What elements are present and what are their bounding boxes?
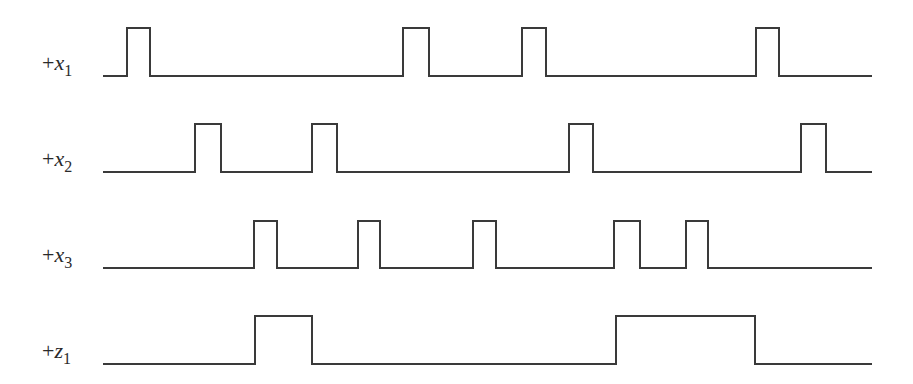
waveform-x1 <box>103 28 872 76</box>
label-subscript: 3 <box>64 254 72 271</box>
label-subscript: 1 <box>63 350 71 367</box>
label-prefix: + <box>42 146 54 171</box>
label-prefix: + <box>42 242 54 267</box>
signal-x1: +x1 <box>42 28 872 79</box>
label-variable: x <box>53 50 64 75</box>
signal-label-x1: +x1 <box>42 50 72 79</box>
label-subscript: 1 <box>64 62 72 79</box>
label-variable: x <box>53 242 64 267</box>
signal-z1: +z1 <box>42 316 872 367</box>
signal-label-x3: +x3 <box>42 242 72 271</box>
waveform-x2 <box>103 124 872 172</box>
signal-label-x2: +x2 <box>42 146 72 175</box>
label-prefix: + <box>42 338 54 363</box>
signal-x2: +x2 <box>42 124 872 175</box>
label-prefix: + <box>42 50 54 75</box>
waveform-z1 <box>103 316 872 364</box>
signal-label-z1: +z1 <box>42 338 71 367</box>
waveform-x3 <box>103 221 872 268</box>
label-variable: x <box>53 146 64 171</box>
timing-diagram: +x1 +x2 +x3 +z1 <box>0 0 913 384</box>
label-subscript: 2 <box>64 158 72 175</box>
label-variable: z <box>53 338 63 363</box>
signal-x3: +x3 <box>42 221 872 271</box>
